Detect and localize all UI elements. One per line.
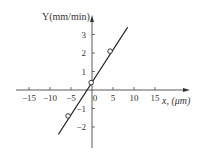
x-tick-label: 0 (93, 93, 98, 103)
x-ticks: −15−10−5051015 (22, 87, 160, 103)
y-tick-label: 3 (82, 30, 87, 40)
x-axis-label: x, (μm) (161, 95, 191, 107)
plot-area (58, 27, 127, 134)
y-axis-label: Y(mm/min) (42, 11, 90, 23)
data-point (108, 49, 113, 54)
x-tick-label: 10 (130, 93, 140, 103)
y-tick-label: 2 (82, 48, 87, 58)
chart: −15−10−5051015 −2−1123 Y(mm/min) x, (μm) (0, 0, 201, 153)
x-tick-label: −15 (22, 93, 37, 103)
x-tick-label: 15 (151, 93, 161, 103)
x-axis (16, 88, 190, 92)
y-tick-label: 1 (82, 67, 87, 77)
x-tick-label: −5 (66, 93, 76, 103)
x-tick-label: 5 (111, 93, 116, 103)
x-tick-label: −10 (43, 93, 58, 103)
y-tick-label: −2 (76, 122, 86, 132)
data-point (89, 80, 94, 85)
data-point (66, 114, 71, 119)
